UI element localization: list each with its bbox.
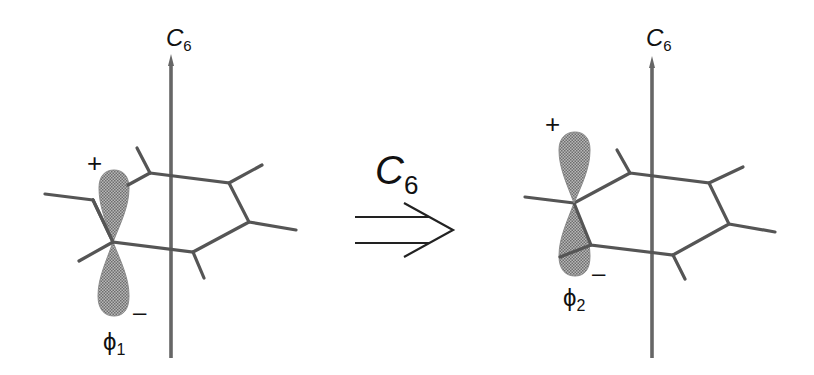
axis-arrowhead-icon — [168, 54, 174, 66]
right-axis-label: C6 — [646, 24, 672, 54]
right-molecule: C6 + – ϕ2 — [525, 24, 775, 358]
symmetry-diagram: C6 + – ϕ1 C6 C6 + — [0, 0, 814, 375]
double-arrow-icon — [355, 203, 453, 257]
left-molecule: C6 + – ϕ1 — [45, 24, 296, 358]
left-axis-label: C6 — [166, 24, 192, 54]
axis-arrowhead-icon — [649, 56, 655, 68]
orbital-label-phi2: ϕ2 — [563, 284, 585, 314]
operation-label: C6 — [375, 148, 418, 200]
orbital-lobe-positive — [99, 170, 129, 242]
c6-operation: C6 — [355, 148, 453, 257]
orbital-lobe-negative — [98, 242, 129, 316]
orbital-label-phi1: ϕ1 — [103, 328, 125, 358]
negative-sign: – — [133, 298, 147, 325]
negative-sign: – — [592, 259, 606, 286]
orbital-lobe-positive — [559, 132, 590, 203]
positive-sign: + — [545, 109, 560, 139]
positive-sign: + — [87, 148, 102, 178]
orbital-lobe-negative — [559, 203, 590, 276]
front-bond — [128, 173, 150, 185]
